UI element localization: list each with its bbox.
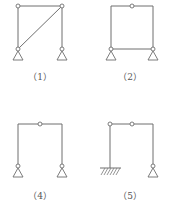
figure-label: （2） <box>118 72 142 82</box>
hinge-icon <box>109 47 113 51</box>
hinge-icon <box>130 122 134 126</box>
hinge-icon <box>130 4 134 8</box>
hinge-icon <box>38 122 42 126</box>
diagonal-bar <box>18 6 62 49</box>
hinge-icon <box>16 47 20 51</box>
pin-support-icon <box>57 168 67 177</box>
hinge-icon <box>60 4 64 8</box>
hinge-icon <box>16 164 20 168</box>
pin-support-icon <box>148 51 158 60</box>
figure-1: （1） <box>13 4 67 82</box>
hinge-icon <box>151 164 155 168</box>
hinge-icon <box>108 122 112 126</box>
figure-label: （5） <box>118 191 142 201</box>
hinge-icon <box>60 164 64 168</box>
figure-label: （4） <box>28 191 52 201</box>
structural-diagram: （1） （2） （4） <box>0 0 169 203</box>
figure-4: （4） <box>13 122 67 201</box>
pin-support-icon <box>106 51 116 60</box>
fixed-support-icon <box>100 168 121 175</box>
hinge-icon <box>151 47 155 51</box>
pin-support-icon <box>148 168 158 177</box>
figure-5: （5） <box>100 122 158 201</box>
pin-support-icon <box>13 168 23 177</box>
figure-label: （1） <box>28 72 52 82</box>
pin-support-icon <box>13 51 23 60</box>
hinge-icon <box>16 4 20 8</box>
figure-2: （2） <box>106 4 158 82</box>
hinge-icon <box>60 47 64 51</box>
pin-support-icon <box>57 51 67 60</box>
